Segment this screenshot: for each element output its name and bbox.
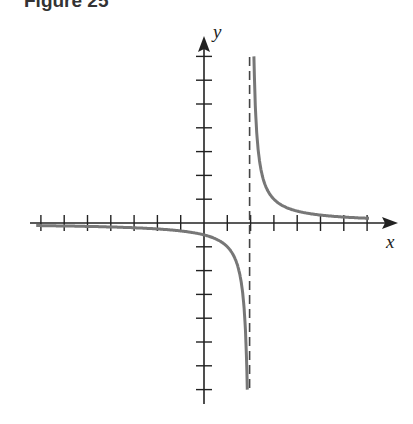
right-branch-curve	[254, 56, 369, 218]
chart: y x	[0, 0, 413, 424]
x-axis-label: x	[385, 231, 395, 252]
left-branch-curve	[36, 226, 247, 390]
axes	[30, 36, 398, 404]
y-axis-label: y	[211, 21, 222, 42]
